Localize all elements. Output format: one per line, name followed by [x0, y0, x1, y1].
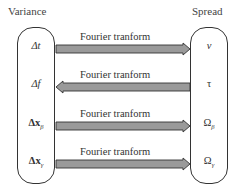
variance-title: Variance	[8, 5, 46, 17]
arrow-label-2: Fourier tranform	[80, 69, 150, 80]
spread-item-omega-beta: Ωβ	[189, 117, 229, 130]
spread-item-omega-gamma: Ωγ	[189, 155, 229, 168]
spread-item-tau: τ	[189, 78, 229, 89]
fourier-arrow-left-2	[54, 80, 191, 94]
variance-item-delta-x-beta: Δxβ	[16, 117, 56, 130]
variance-item-delta-x-gamma: Δxγ	[16, 155, 56, 168]
variance-item-delta-t: Δt	[16, 40, 56, 51]
arrow-label-1: Fourier tranform	[80, 31, 150, 42]
fourier-arrow-right-1	[55, 42, 192, 56]
variance-item-delta-f: Δf	[16, 78, 56, 89]
fourier-arrow-right-4	[55, 157, 192, 171]
arrow-label-4: Fourier tranform	[80, 146, 150, 157]
spread-title: Spread	[192, 5, 223, 17]
fourier-arrow-right-3	[55, 119, 192, 133]
arrow-label-3: Fourier tranform	[80, 108, 150, 119]
spread-item-nu: ν	[189, 40, 229, 51]
